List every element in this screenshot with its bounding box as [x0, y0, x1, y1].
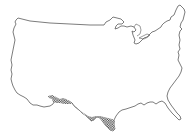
- us-range-map: [0, 0, 194, 140]
- us-outline: [11, 5, 185, 131]
